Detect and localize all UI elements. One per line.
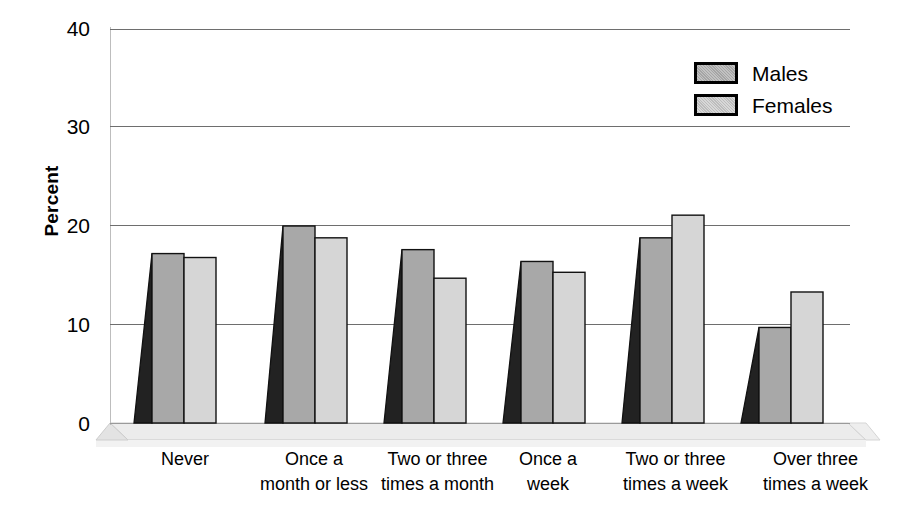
bar-females-3 [553,272,585,423]
bar-group-two-or-three-times-a-week [622,215,704,423]
bar-females-1 [315,238,347,423]
females-swatch-icon [694,94,738,116]
legend-item-females: Females [694,89,833,121]
bar-males-1 [283,226,315,423]
chart-legend: Males Females [694,57,833,121]
bar-group-two-or-three-times-a-month [384,250,466,423]
legend-label-females: Females [752,95,833,116]
bar-group-once-a-week [503,261,585,423]
bar-females-4 [672,215,704,423]
bar-males-5 [759,327,791,423]
bar-side-males-0 [134,254,152,423]
bar-females-0 [184,258,216,423]
bar-group-never [134,254,216,423]
x-tick-5: Over three times a week [733,447,898,497]
bar-females-2 [434,278,466,423]
bar-side-males-3 [503,261,521,423]
bar-chart: Percent 40 30 20 10 0 [0,0,913,520]
bar-group-once-a-month-or-less [265,226,347,423]
legend-item-males: Males [694,57,833,89]
bar-group-over-three-times-a-week [741,292,823,423]
x-tick-5-line2: times a week [733,472,898,497]
males-swatch-icon [694,62,738,84]
legend-label-males: Males [752,63,808,84]
bar-side-males-1 [265,226,283,423]
bar-side-males-5 [741,327,759,423]
bar-males-2 [402,250,434,423]
bar-males-3 [521,261,553,423]
bar-side-males-4 [622,238,640,423]
bar-males-4 [640,238,672,423]
bar-side-males-2 [384,250,402,423]
bar-males-0 [152,254,184,423]
bar-females-5 [791,292,823,423]
x-tick-5-line1: Over three [733,447,898,472]
